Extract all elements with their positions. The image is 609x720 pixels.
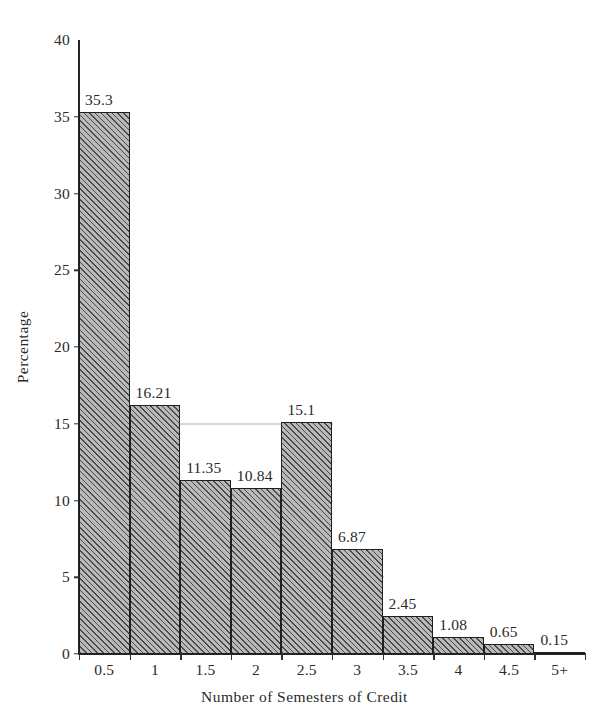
x-axis-tick-label: 0.5 [94, 661, 114, 679]
x-axis-title: Number of Semesters of Credit [0, 688, 609, 706]
x-axis-tick-label: 3 [353, 661, 361, 679]
x-axis-tick-mark [180, 653, 181, 660]
bar-value-label: 10.84 [237, 467, 273, 485]
x-axis-tick-mark [585, 653, 586, 660]
bar-value-label: 15.1 [287, 401, 315, 419]
bar-value-label: 0.15 [540, 631, 568, 649]
x-axis-tick-mark [79, 653, 80, 660]
x-axis-tick-label: 3.5 [398, 661, 418, 679]
x-axis-tick-label: 2 [252, 661, 260, 679]
bar [79, 112, 130, 654]
bar-value-label: 6.87 [338, 528, 366, 546]
bar [534, 652, 585, 654]
bar [231, 488, 282, 654]
bar [180, 480, 231, 654]
bar-value-label: 16.21 [136, 384, 172, 402]
bar-value-label: 0.65 [490, 623, 518, 641]
x-axis-tick-mark [484, 653, 485, 660]
bar-value-label: 35.3 [85, 91, 113, 109]
x-axis-tick-mark [534, 653, 535, 660]
bar [484, 644, 535, 654]
bar [383, 616, 434, 654]
x-axis-tick-mark [433, 653, 434, 660]
bar-value-label: 2.45 [389, 595, 417, 613]
x-axis-tick-mark [281, 653, 282, 660]
x-axis-tick-mark [130, 653, 131, 660]
bar [281, 422, 332, 654]
x-axis-tick-label: 4 [455, 661, 463, 679]
bar [433, 637, 484, 654]
x-axis-tick-mark [332, 653, 333, 660]
bar [332, 549, 383, 654]
x-axis-tick-mark [383, 653, 384, 660]
y-axis-title: Percentage [14, 40, 48, 654]
x-axis-tick-label: 1 [151, 661, 159, 679]
x-axis-tick-label: 1.5 [196, 661, 216, 679]
x-axis-tick-label: 5+ [551, 661, 568, 679]
x-axis-tick-mark [231, 653, 232, 660]
x-axis-tick-label: 4.5 [499, 661, 519, 679]
bar-value-label: 11.35 [186, 459, 221, 477]
bar-chart-figure: 0510152025303540 0.511.522.533.544.55+ N… [0, 0, 609, 720]
x-axis-tick-label: 2.5 [297, 661, 317, 679]
bar-value-label: 1.08 [439, 616, 467, 634]
bar-series [79, 40, 585, 654]
bar [130, 405, 181, 654]
